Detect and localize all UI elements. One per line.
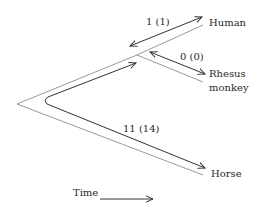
taxon-horse-label: Horse (211, 168, 242, 180)
human-distance-label: 1 (1) (146, 16, 170, 28)
rhesus-distance-label: 0 (0) (180, 51, 204, 63)
time-axis-label: Time (73, 187, 98, 199)
branch-root-to-horse (17, 104, 203, 175)
taxon-human-label: Human (209, 17, 246, 29)
horse-path-arrow (45, 63, 205, 168)
branch-root-to-human (17, 25, 203, 104)
taxon-monkey-label: monkey (209, 82, 249, 94)
taxon-rhesus-label: Rhesus (209, 68, 246, 80)
horse-distance-label: 11 (14) (123, 123, 159, 135)
